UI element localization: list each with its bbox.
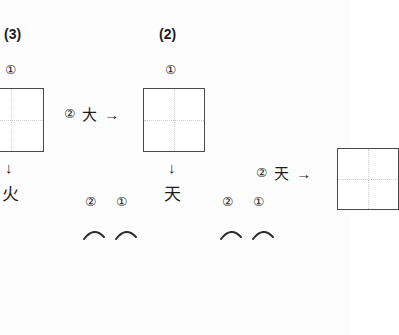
exercise-2-prompt-stroke-number: ② bbox=[64, 108, 75, 121]
exercise-2-prompt-arrow-right: → bbox=[104, 107, 119, 122]
stroke-group-center-number-2: ② bbox=[85, 196, 96, 209]
stroke-group-right-number-2: ② bbox=[222, 196, 233, 209]
exercise-3-stroke-number-1: ① bbox=[5, 64, 16, 77]
exercise-2-result-character: 天 bbox=[164, 186, 181, 203]
exercise-2-number-label: (2) bbox=[159, 27, 176, 41]
exercise-2-stroke-number-1: ① bbox=[165, 64, 176, 77]
practice-box-horizontal-guide bbox=[144, 120, 204, 121]
stroke-group-right-arc-2 bbox=[220, 226, 242, 240]
exercise-2-practice-box[interactable] bbox=[143, 88, 205, 152]
exercise-2-prompt: ② 大 → bbox=[64, 107, 119, 122]
stroke-group-right-arc-1 bbox=[252, 226, 274, 240]
exercise-3-result-character: 火 bbox=[2, 186, 19, 203]
exercise-3-number-label: (3) bbox=[4, 27, 21, 41]
exercise-3-down-arrow: ↓ bbox=[5, 160, 13, 175]
exercise-1-prompt-character: 天 bbox=[274, 166, 289, 181]
stroke-group-right-number-1: ① bbox=[253, 196, 264, 209]
exercise-2-prompt-character: 大 bbox=[82, 107, 97, 122]
stroke-group-center-arc-2 bbox=[83, 226, 105, 240]
stroke-group-center-arc-1 bbox=[115, 226, 137, 240]
practice-box-horizontal-guide bbox=[338, 179, 398, 180]
exercise-1-prompt-stroke-number: ② bbox=[256, 167, 267, 180]
exercise-1-prompt: ② 天 → bbox=[256, 166, 311, 181]
practice-box-horizontal-guide bbox=[0, 120, 43, 121]
stroke-group-center-number-1: ① bbox=[116, 196, 127, 209]
exercise-3-practice-box[interactable] bbox=[0, 88, 44, 152]
exercise-1-practice-box[interactable] bbox=[337, 148, 399, 210]
exercise-2-down-arrow: ↓ bbox=[168, 160, 176, 175]
exercise-1-prompt-arrow-right: → bbox=[296, 166, 311, 181]
